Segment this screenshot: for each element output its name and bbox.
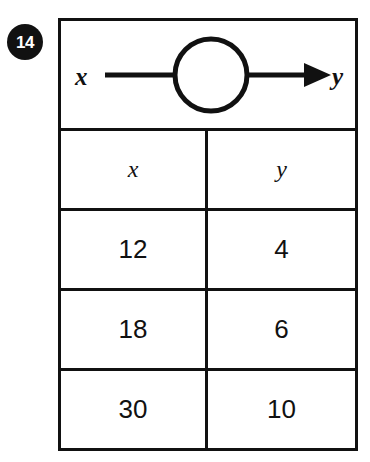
table-cell-y: 4 xyxy=(208,211,355,288)
question-number-badge: 14 xyxy=(7,24,43,60)
table-header-y: y xyxy=(208,131,355,208)
machine-circle-icon xyxy=(175,39,247,111)
arrow-head-icon xyxy=(304,63,331,87)
function-machine-icon xyxy=(61,21,355,125)
table-row: 18 6 xyxy=(61,291,355,371)
table-cell-x: 30 xyxy=(61,371,208,448)
table-row: 30 10 xyxy=(61,371,355,448)
table-cell-x: 18 xyxy=(61,291,208,368)
table-header-row: x y xyxy=(61,131,355,211)
table-cell-x: 12 xyxy=(61,211,208,288)
table-cell-y: 10 xyxy=(208,371,355,448)
question-number-text: 14 xyxy=(16,34,34,51)
table-row: 12 4 xyxy=(61,211,355,291)
diagram-output-variable-label: y xyxy=(332,64,343,89)
table-header-x: x xyxy=(61,131,208,208)
table-cell-y: 6 xyxy=(208,291,355,368)
function-machine-table: x y x y 12 4 18 6 30 10 xyxy=(58,18,358,451)
function-machine-diagram-row: x y xyxy=(61,21,355,131)
